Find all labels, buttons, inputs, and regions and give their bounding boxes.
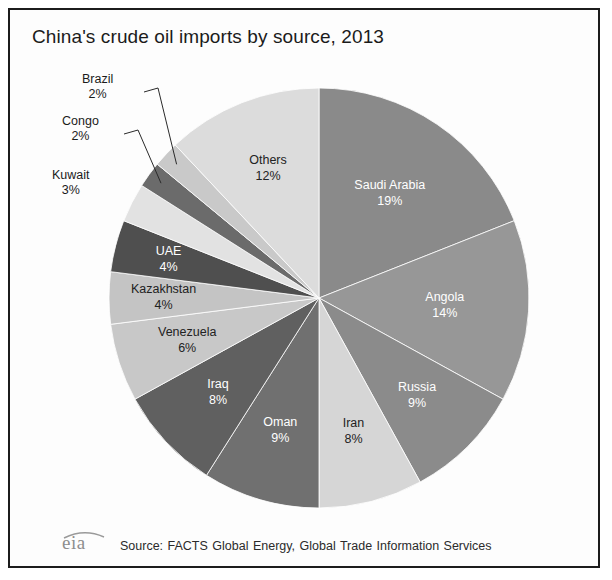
outside-label-name-congo: Congo [62, 114, 99, 129]
chart-footer: eia Source: FACTS Global Energy, Global … [10, 532, 600, 558]
outside-label-value-congo: 2% [62, 129, 99, 144]
slice-label-value-oman: 9% [271, 431, 289, 445]
slice-label-value-iraq: 8% [209, 393, 227, 407]
slice-label-value-saudi-arabia: 19% [377, 194, 402, 208]
slice-label-value-venezuela: 6% [178, 341, 196, 355]
slice-label-value-uae: 4% [159, 260, 177, 274]
outside-label-kuwait: Kuwait3% [52, 168, 90, 198]
outside-label-value-kuwait: 3% [52, 183, 90, 198]
slice-label-value-iran: 8% [344, 432, 362, 446]
outside-label-brazil: Brazil2% [82, 72, 113, 102]
slice-label-name-uae: UAE [156, 244, 182, 258]
slice-label-value-russia: 9% [408, 396, 426, 410]
slice-label-name-iraq: Iraq [207, 377, 229, 391]
slice-label-name-iran: Iran [343, 416, 365, 430]
chart-figure: China's crude oil imports by source, 201… [8, 8, 600, 568]
slice-label-name-russia: Russia [398, 380, 436, 394]
slice-label-value-angola: 14% [432, 306, 457, 320]
outside-label-name-kuwait: Kuwait [52, 168, 90, 183]
slice-label-name-kazakhstan: Kazakhstan [131, 282, 196, 296]
slice-label-name-venezuela: Venezuela [158, 325, 216, 339]
eia-logo: eia [62, 532, 86, 554]
pie-chart: Saudi Arabia19%Angola14%Russia9%Iran8%Om… [10, 10, 600, 568]
outside-label-value-brazil: 2% [82, 87, 113, 102]
source-note: Source: FACTS Global Energy, Global Trad… [120, 539, 492, 553]
slice-label-name-angola: Angola [425, 290, 464, 304]
slice-label-name-oman: Oman [263, 415, 297, 429]
slice-label-name-saudi-arabia: Saudi Arabia [354, 178, 425, 192]
outside-label-name-brazil: Brazil [82, 72, 113, 87]
outside-label-congo: Congo2% [62, 114, 99, 144]
slice-label-name-others: Others [249, 153, 287, 167]
slice-label-value-kazakhstan: 4% [155, 298, 173, 312]
slice-label-value-others: 12% [255, 169, 280, 183]
